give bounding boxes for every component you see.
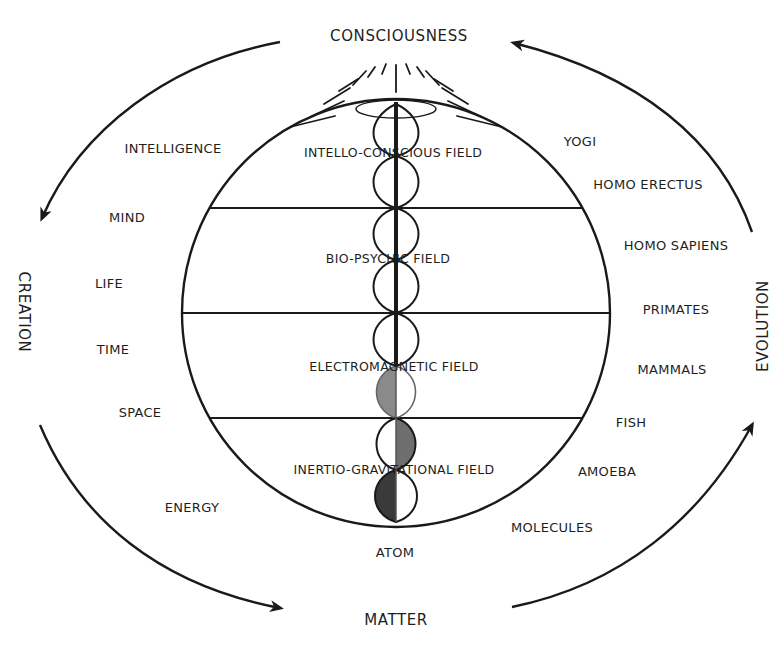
creation-stage-energy: ENERGY [165, 500, 219, 515]
evolution-stage-mammals: MAMMALS [637, 362, 706, 377]
field-label-inertio-gravitational: INERTIO-GRAVITATIONAL FIELD [294, 462, 495, 477]
cycle-label-right: EVOLUTION [754, 280, 772, 372]
field-label-intello-conscious: INTELLO-CONSCIOUS FIELD [304, 145, 482, 160]
cycle-label-top: CONSCIOUSNESS [330, 27, 468, 45]
field-label-electromagnetic: ELECTROMAGNETIC FIELD [309, 359, 478, 374]
evolution-arrow-lower [512, 425, 752, 607]
evolution-stage-molecules: MOLECULES [511, 520, 593, 535]
evolution-arrow-upper [514, 43, 752, 232]
creation-stage-life: LIFE [95, 276, 123, 291]
creation-stage-mind: MIND [109, 210, 145, 225]
evolution-stage-homo-erectus: HOMO ERECTUS [593, 177, 702, 192]
field-label-bio-psychic: BIO-PSYCHIC FIELD [326, 251, 450, 266]
evolution-stage-homo-sapiens: HOMO SAPIENS [624, 238, 728, 253]
cycle-label-left: CREATION [15, 272, 33, 353]
cycle-label-bottom: MATTER [364, 611, 428, 629]
creation-stage-intelligence: INTELLIGENCE [125, 141, 222, 156]
creation-stage-time: TIME [97, 342, 129, 357]
evolution-stage-primates: PRIMATES [643, 302, 710, 317]
creation-arrow-upper [42, 42, 280, 218]
base-label-atom: ATOM [376, 545, 414, 560]
evolution-stage-fish: FISH [616, 415, 647, 430]
creation-stage-space: SPACE [119, 405, 162, 420]
evolution-stage-yogi: YOGI [564, 134, 597, 149]
creation-arrow-lower [40, 425, 280, 608]
consciousness-cycle-diagram: CONSCIOUSNESS MATTER CREATION EVOLUTION … [0, 0, 782, 648]
evolution-stage-amoeba: AMOEBA [578, 464, 636, 479]
